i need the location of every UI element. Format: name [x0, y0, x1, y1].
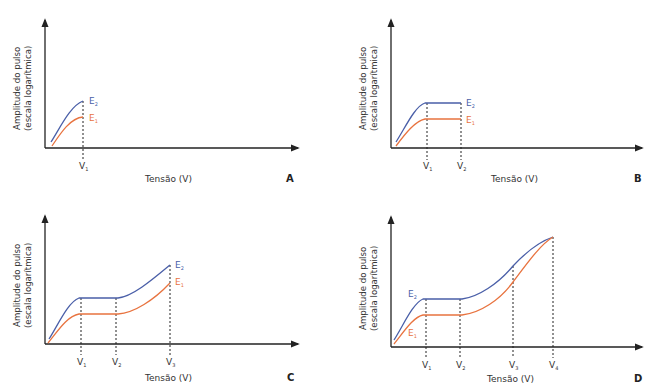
tick-v1: V1	[77, 357, 86, 368]
e2-curve	[396, 103, 461, 142]
e2-curve	[51, 101, 83, 142]
e1-curve	[396, 119, 461, 146]
tick-v1: V1	[422, 360, 431, 371]
e1-curve	[48, 283, 170, 343]
y-axis-label-line1: Amplitude do pulso	[358, 247, 368, 330]
x-axis-label: Tensão (V)	[486, 374, 534, 384]
y-axis-label-line1: Amplitude do pulso	[12, 244, 22, 327]
tick-v2: V2	[456, 360, 465, 371]
panel-b: E2 E1 V1 V2 Tensão (V) B Amplitude do pu…	[358, 20, 642, 184]
tick-v1: V1	[423, 161, 432, 172]
tick-v3: V3	[166, 357, 175, 368]
panel-label: B	[634, 173, 642, 184]
e2-curve	[394, 237, 553, 340]
e2-label: E2	[89, 96, 98, 107]
e2-label: E2	[466, 98, 475, 109]
tick-v3: V3	[509, 360, 518, 371]
panel-d: E2 E1 V1 V2 V3 V4 Tensão (V) D Amplitude…	[358, 217, 642, 384]
y-axis-label-line1: Amplitude do pulso	[12, 47, 22, 130]
panel-label: A	[286, 173, 294, 184]
panel-label: D	[634, 373, 642, 384]
e1-label: E1	[175, 277, 184, 288]
tick-v4: V4	[549, 360, 558, 371]
tick-v1: V1	[79, 161, 88, 172]
e2-curve	[49, 265, 170, 339]
e2-label: E2	[175, 260, 184, 271]
figure: E2 E1 V1 Tensão (V) A Amplitude do pulso…	[0, 0, 656, 391]
y-axis-label-line2: (escala logarítmica)	[369, 46, 379, 131]
panel-c: E2 E1 V1 V2 V3 Tensão (V) C Amplitude do…	[12, 216, 298, 383]
x-axis-label: Tensão (V)	[490, 174, 538, 184]
e1-label: E1	[89, 113, 98, 124]
y-axis-label-line1: Amplitude do pulso	[358, 47, 368, 130]
panel-a: E2 E1 V1 Tensão (V) A Amplitude do pulso…	[12, 20, 298, 184]
x-axis-label: Tensão (V)	[144, 373, 192, 383]
tick-v2: V2	[457, 161, 466, 172]
tick-v2: V2	[112, 357, 121, 368]
panel-label: C	[287, 372, 294, 383]
x-axis-label: Tensão (V)	[144, 174, 192, 184]
e2-label: E2	[408, 289, 417, 300]
e1-curve	[394, 237, 553, 344]
e1-label: E1	[466, 115, 475, 126]
y-axis-label-line2: (escala logarítmica)	[23, 46, 33, 131]
e1-label: E1	[408, 328, 417, 339]
y-axis-label-line2: (escala logarítmica)	[23, 243, 33, 328]
y-axis-label-line2: (escala logarítmica)	[369, 246, 379, 331]
